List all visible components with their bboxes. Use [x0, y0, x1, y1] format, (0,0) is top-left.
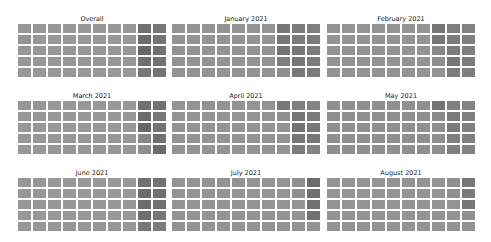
heatmap-cell [217, 101, 230, 110]
heatmap-cell [432, 101, 445, 110]
heatmap-cell [447, 123, 460, 132]
heatmap-cell [232, 134, 245, 143]
heatmap-cell [187, 35, 200, 44]
heatmap-cell [217, 57, 230, 66]
heatmap-cell [417, 145, 430, 154]
heatmap-cell [357, 57, 370, 66]
heatmap-cell [93, 68, 106, 77]
heatmap-cell [307, 112, 320, 121]
heatmap-cell [187, 211, 200, 220]
heatmap-cell [123, 68, 136, 77]
heatmap-cell [123, 123, 136, 132]
heatmap-cell [123, 134, 136, 143]
heatmap-cell [357, 189, 370, 198]
heatmap-cell [18, 178, 31, 187]
heatmap-cell [327, 134, 340, 143]
heatmap-cell [138, 222, 151, 231]
heatmap-cell [262, 57, 275, 66]
heatmap-cell [417, 211, 430, 220]
heatmap-cell [387, 222, 400, 231]
panel-title: April 2021 [172, 92, 320, 100]
heatmap-cell [138, 35, 151, 44]
heatmap-cell [247, 46, 260, 55]
heatmap-cell [462, 57, 475, 66]
heatmap-cell [108, 35, 121, 44]
heatmap-cell [153, 68, 166, 77]
heatmap-cell [417, 24, 430, 33]
heatmap-cell [357, 200, 370, 209]
heatmap-cell [307, 57, 320, 66]
heatmap-cell [202, 101, 215, 110]
heatmap-cell [123, 211, 136, 220]
heatmap-cell [232, 68, 245, 77]
heatmap-cell [63, 101, 76, 110]
heatmap-cell [447, 211, 460, 220]
heatmap-cell [447, 57, 460, 66]
heatmap-cell [18, 35, 31, 44]
heatmap-cell [447, 24, 460, 33]
heatmap-cell [153, 189, 166, 198]
heatmap-cell [48, 145, 61, 154]
heatmap-cell [387, 101, 400, 110]
heatmap-cell [277, 145, 290, 154]
heatmap-cell [33, 222, 46, 231]
heatmap-cell [187, 68, 200, 77]
heatmap-cell [108, 46, 121, 55]
heatmap-cell [292, 211, 305, 220]
heatmap-cell [217, 189, 230, 198]
heatmap-cell [108, 211, 121, 220]
heatmap-cell [153, 35, 166, 44]
heatmap-cell [462, 145, 475, 154]
heatmap-cell [402, 178, 415, 187]
heatmap-cell [232, 189, 245, 198]
heatmap-cell [372, 35, 385, 44]
heatmap-cell [48, 68, 61, 77]
heatmap-cell [232, 211, 245, 220]
heatmap-cell [387, 178, 400, 187]
heatmap-cell [93, 46, 106, 55]
heatmap-cell [217, 211, 230, 220]
heatmap-cell [78, 35, 91, 44]
heatmap-cell [342, 145, 355, 154]
heatmap-cell [432, 57, 445, 66]
heatmap-cell [202, 68, 215, 77]
heatmap-cell [462, 35, 475, 44]
heatmap-cell [33, 68, 46, 77]
heatmap-cell [232, 35, 245, 44]
heatmap-cell [187, 57, 200, 66]
heatmap-cell [232, 57, 245, 66]
heatmap-cell [18, 68, 31, 77]
heatmap-cell [232, 101, 245, 110]
heatmap-cell [123, 46, 136, 55]
heatmap-cell [372, 24, 385, 33]
heatmap-cell [202, 134, 215, 143]
heatmap-cell [447, 68, 460, 77]
heatmap-cell [232, 178, 245, 187]
heatmap-cell [372, 46, 385, 55]
heatmap-grid [18, 178, 166, 231]
heatmap-cell [432, 189, 445, 198]
heatmap-cell [138, 112, 151, 121]
heatmap-cell [202, 178, 215, 187]
heatmap-cell [172, 24, 185, 33]
heatmap-cell [93, 134, 106, 143]
heatmap-cell [277, 178, 290, 187]
panel-title: January 2021 [172, 15, 320, 23]
heatmap-cell [217, 178, 230, 187]
heatmap-cell [202, 145, 215, 154]
heatmap-cell [93, 178, 106, 187]
heatmap-cell [217, 200, 230, 209]
heatmap-cell [153, 145, 166, 154]
heatmap-cell [402, 134, 415, 143]
heatmap-cell [292, 112, 305, 121]
heatmap-cell [447, 35, 460, 44]
heatmap-cell [417, 46, 430, 55]
heatmap-cell [417, 134, 430, 143]
heatmap-cell [93, 211, 106, 220]
heatmap-cell [327, 112, 340, 121]
heatmap-cell [417, 200, 430, 209]
heatmap-cell [357, 35, 370, 44]
heatmap-cell [217, 222, 230, 231]
heatmap-cell [33, 178, 46, 187]
heatmap-cell [372, 189, 385, 198]
